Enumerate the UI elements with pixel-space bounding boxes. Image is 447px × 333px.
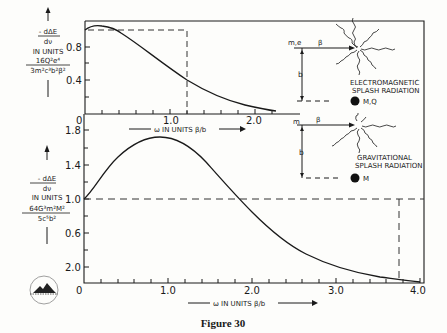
top-panel: 0.8 0.4 0 1.0 2.0 ω IN UNITS β/b - dΔE d… xyxy=(26,7,424,134)
up-arrow-icon xyxy=(45,145,50,152)
bottom-x-ticks xyxy=(101,278,420,283)
bottom-inset-diagram: m β b M GRAVITATIONAL SPLASH RADIATION xyxy=(293,113,423,183)
bottom-ytick-1.0: 1.0 xyxy=(65,194,81,205)
top-xtick-2.0: 2.0 xyxy=(246,115,262,126)
top-xlabel: ω IN UNITS β/b xyxy=(129,126,246,134)
figure: 0.8 0.4 0 1.0 2.0 ω IN UNITS β/b - dΔE d… xyxy=(0,0,447,333)
bottom-ytick-1.8: 1.8 xyxy=(65,125,81,136)
svg-text:GRAVITATIONAL: GRAVITATIONAL xyxy=(357,154,412,162)
figure-caption: Figure 30 xyxy=(201,317,246,329)
velocity-arrow-icon xyxy=(349,123,355,128)
bottom-ytick-0.6: 0.6 xyxy=(65,228,81,239)
svg-text:dν: dν xyxy=(44,38,52,46)
svg-text:SPLASH RADIATION: SPLASH RADIATION xyxy=(352,87,420,95)
bottom-xtick-4.0: 4.0 xyxy=(410,285,426,296)
svg-text:3m²c³b²β²: 3m²c³b²β² xyxy=(30,67,65,75)
bottom-xlabel: ω IN UNITS β/b xyxy=(188,300,318,308)
top-y-ticks xyxy=(85,47,90,97)
top-ylabel: - dΔE dν IN UNITS 16Q²e⁴ 3m²c³b²β² xyxy=(26,7,70,97)
source-mass-icon xyxy=(351,174,360,183)
bottom-ytick-2.0: 2.0 xyxy=(65,262,81,273)
bottom-xtick-1.0: 1.0 xyxy=(160,285,176,296)
top-step-approximation xyxy=(88,30,187,114)
svg-text:dν: dν xyxy=(43,185,51,193)
svg-text:M,Q: M,Q xyxy=(363,98,377,106)
bottom-xtick-3.0: 3.0 xyxy=(328,285,344,296)
bottom-step-approximation xyxy=(84,199,424,283)
radiation-waves-icon xyxy=(332,113,396,153)
svg-text:β: β xyxy=(318,39,322,47)
top-ytick-0.8: 0.8 xyxy=(66,42,82,53)
svg-text:64G³m²M²: 64G³m²M² xyxy=(29,205,65,213)
top-ytick-0.4: 0.4 xyxy=(66,75,82,86)
top-spectrum-curve xyxy=(85,26,276,111)
source-mass-icon xyxy=(351,97,360,106)
bottom-panel: 1.8 1.4 1.0 0.6 2.0 0 1.0 2.0 3.0 4.0 ω … xyxy=(22,113,426,308)
svg-text:m,e: m,e xyxy=(288,39,301,47)
svg-text:16Q²e⁴: 16Q²e⁴ xyxy=(36,57,61,65)
bottom-ytick-1.4: 1.4 xyxy=(65,160,81,171)
bottom-ylabel: - dΔE dν IN UNITS 64G³m²M² 5c⁵b² xyxy=(22,145,70,244)
publisher-logo-icon xyxy=(30,276,58,304)
svg-text:- dΔE: - dΔE xyxy=(38,175,56,183)
bottom-xtick-2.0: 2.0 xyxy=(244,285,260,296)
bottom-xtick-0: 0 xyxy=(76,285,82,296)
svg-text:- dΔE: - dΔE xyxy=(39,28,57,36)
svg-text:ω IN UNITS β/b: ω IN UNITS β/b xyxy=(213,300,266,308)
svg-text:b: b xyxy=(299,148,304,157)
up-arrow-icon xyxy=(46,7,51,13)
svg-text:β: β xyxy=(316,116,320,124)
svg-text:M: M xyxy=(363,175,369,183)
top-xtick-1.0: 1.0 xyxy=(163,115,179,126)
svg-text:5c⁵b²: 5c⁵b² xyxy=(38,215,57,223)
svg-text:IN UNITS: IN UNITS xyxy=(33,48,64,56)
svg-text:ELECTROMAGNETIC: ELECTROMAGNETIC xyxy=(350,79,419,87)
svg-text:b: b xyxy=(298,70,303,79)
top-inset-diagram: m,e β b M,Q ELECTROMAGNETIC SPLASH RADIA… xyxy=(288,18,420,106)
svg-text:IN UNITS: IN UNITS xyxy=(32,194,63,202)
svg-text:SPLASH RADIATION: SPLASH RADIATION xyxy=(355,162,423,170)
svg-text:ω IN UNITS β/b: ω IN UNITS β/b xyxy=(154,126,207,134)
radiation-waves-icon xyxy=(336,18,395,75)
velocity-arrow-icon xyxy=(349,46,355,51)
